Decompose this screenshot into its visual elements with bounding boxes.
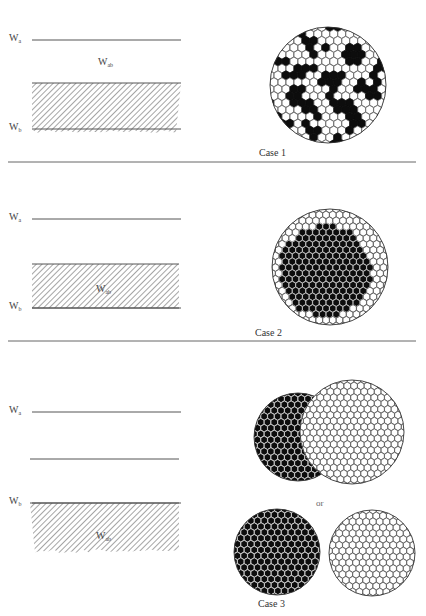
level-label-a: Wa [9,404,21,416]
figure-canvas [0,0,426,616]
lattice-circle-mixed [258,16,397,149]
mixed-phase-hatch-1 [32,15,181,133]
mixed-phase-hatch-3 [30,503,179,553]
case-label-2: Case 2 [255,327,282,338]
case-label-1: Case 1 [259,147,286,158]
level-label-b: Wb [9,495,21,507]
level-label-b: Wb [9,300,21,312]
lattice-circle-light [319,500,424,601]
interaction-label-wab: Wab [96,283,111,295]
level-label-a: Wa [9,211,21,223]
level-label-b: Wb [9,121,21,133]
or-label: or [316,498,324,508]
interaction-label-wab: Wab [98,56,113,68]
phase-separation-figure [0,0,426,616]
level-label-a: Wa [9,32,21,44]
interaction-label-wab: Wab [96,530,111,542]
lattice-circle-dark [224,499,329,600]
lattice-circle-core-shell [262,199,397,329]
case-label-3: Case 3 [258,598,285,609]
